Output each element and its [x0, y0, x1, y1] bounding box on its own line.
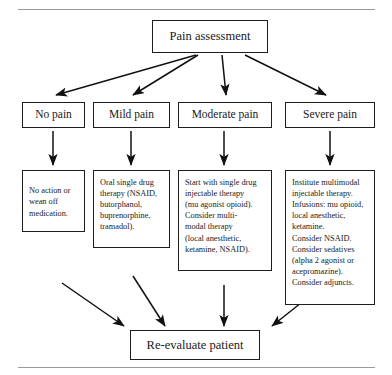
node-mild-pain[interactable]: Mild pain — [93, 102, 170, 128]
node-treatment-mild-pain[interactable]: Oral single drug therapy (NSAID, butorph… — [93, 170, 170, 248]
node-no-pain-label: No pain — [35, 108, 72, 122]
node-reevaluate-patient[interactable]: Re-evaluate patient — [130, 330, 260, 360]
node-treatment-severe-pain[interactable]: Institute multimodal injectable therapy.… — [285, 170, 375, 305]
node-treatment-moderate-pain-label: Start with single drug injectable therap… — [185, 177, 257, 255]
node-reevaluate-patient-label: Re-evaluate patient — [147, 338, 244, 353]
node-treatment-no-pain[interactable]: No action or wean off medication. — [22, 170, 85, 232]
node-treatment-moderate-pain[interactable]: Start with single drug injectable therap… — [178, 170, 272, 271]
node-treatment-mild-pain-label: Oral single drug therapy (NSAID, butorph… — [100, 177, 157, 233]
arrow-root-to-mild-pain — [133, 55, 198, 95]
arrow-treatment2-to-reevaluate — [133, 276, 165, 326]
node-pain-assessment[interactable]: Pain assessment — [152, 20, 268, 53]
pain-assessment-flowchart: Pain assessment No pain Mild pain Modera… — [0, 0, 392, 375]
node-treatment-no-pain-label: No action or wean off medication. — [29, 185, 70, 218]
node-mild-pain-label: Mild pain — [109, 108, 154, 122]
node-moderate-pain-label: Moderate pain — [192, 108, 259, 122]
top-divider-rule — [18, 9, 375, 10]
node-pain-assessment-label: Pain assessment — [170, 29, 251, 44]
node-no-pain[interactable]: No pain — [22, 102, 85, 128]
arrow-root-to-severe-pain — [245, 55, 326, 95]
bottom-divider-rule — [18, 367, 375, 368]
node-severe-pain[interactable]: Severe pain — [285, 102, 375, 128]
arrow-root-to-no-pain — [56, 55, 196, 95]
node-treatment-severe-pain-label: Institute multimodal injectable therapy.… — [292, 177, 363, 288]
arrow-root-to-moderate-pain — [222, 55, 226, 95]
node-severe-pain-label: Severe pain — [303, 108, 357, 122]
node-moderate-pain[interactable]: Moderate pain — [178, 102, 272, 128]
arrow-treatment1-to-reevaluate — [62, 283, 124, 326]
